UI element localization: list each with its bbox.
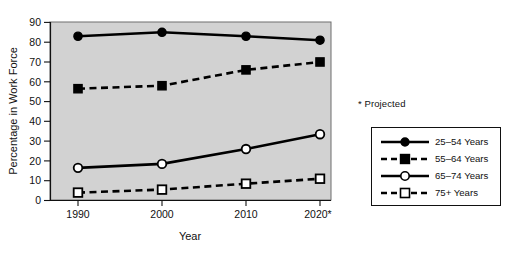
x-tick-label: 1990 xyxy=(66,208,90,220)
data-point xyxy=(242,32,250,40)
y-tick-label: 90 xyxy=(29,16,41,28)
plot-area-background xyxy=(50,22,331,200)
legend-label: 75+ Years xyxy=(435,187,478,198)
y-tick-label: 40 xyxy=(29,115,41,127)
x-axis-title: Year xyxy=(179,230,202,242)
x-tick-label: 2000 xyxy=(150,208,174,220)
data-point xyxy=(242,179,251,188)
x-axis-tick-labels: 1990 2000 2010 2020* xyxy=(66,208,331,220)
y-tick-label: 80 xyxy=(29,36,41,48)
x-tick-label: 2020* xyxy=(304,208,331,220)
legend-marker-filled-square xyxy=(379,152,431,166)
data-point xyxy=(316,130,325,139)
data-point xyxy=(316,36,324,44)
y-tick-label: 10 xyxy=(29,174,41,186)
legend-marker-open-square xyxy=(379,186,431,200)
data-point xyxy=(74,85,82,93)
chart-legend: 25–54 Years 55–64 Years 65–74 Years xyxy=(371,127,501,206)
data-point xyxy=(74,188,83,197)
y-tick-label: 0 xyxy=(35,194,41,206)
legend-label: 65–74 Years xyxy=(435,170,488,181)
data-point xyxy=(158,160,167,169)
x-tick-label: 2010 xyxy=(234,208,258,220)
legend-marker-filled-circle xyxy=(379,135,431,149)
y-axis-tick-labels: 90 80 70 60 50 40 30 20 10 0 xyxy=(29,16,41,206)
data-point xyxy=(74,32,82,40)
projected-footnote: * Projected xyxy=(358,98,406,109)
y-tick-label: 30 xyxy=(29,135,41,147)
data-point xyxy=(242,66,250,74)
y-tick-label: 50 xyxy=(29,95,41,107)
legend-label: 55–64 Years xyxy=(435,153,488,164)
legend-item[interactable]: 75+ Years xyxy=(372,184,500,201)
data-point xyxy=(316,58,324,66)
legend-item[interactable]: 25–54 Years xyxy=(372,133,500,150)
y-axis-ticks xyxy=(44,22,50,200)
legend-item[interactable]: 55–64 Years xyxy=(372,150,500,167)
data-point xyxy=(158,82,166,90)
y-tick-label: 70 xyxy=(29,56,41,68)
y-tick-label: 20 xyxy=(29,155,41,167)
y-axis-title: Percentage in Work Force xyxy=(7,47,19,175)
legend-item[interactable]: 65–74 Years xyxy=(372,167,500,184)
chart-figure: 90 80 70 60 50 40 30 20 10 0 Percentage … xyxy=(0,0,512,255)
legend-label: 25–54 Years xyxy=(435,136,488,147)
data-point xyxy=(158,28,166,36)
data-point xyxy=(158,185,167,194)
legend-marker-open-circle xyxy=(379,169,431,183)
data-point xyxy=(316,174,325,183)
y-tick-label: 60 xyxy=(29,76,41,88)
data-point xyxy=(242,145,251,154)
data-point xyxy=(74,164,83,173)
